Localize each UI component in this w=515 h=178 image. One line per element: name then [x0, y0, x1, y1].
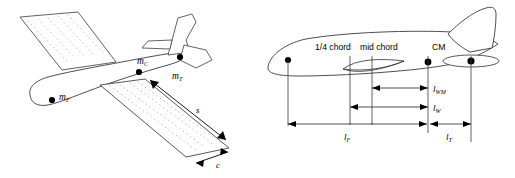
- span-label: s: [196, 105, 200, 115]
- chord-label: c: [216, 160, 220, 170]
- mF-dot: [49, 97, 55, 103]
- mT-dot: [177, 54, 183, 60]
- aircraft-mass-and-geometry-figure: s c mF mC mT: [0, 0, 515, 178]
- mid-chord-label: mid chord: [360, 42, 398, 52]
- mC-dot: [136, 69, 142, 75]
- quarter-chord-label: 1/4 chord: [315, 42, 351, 52]
- cm-label: CM: [432, 42, 445, 52]
